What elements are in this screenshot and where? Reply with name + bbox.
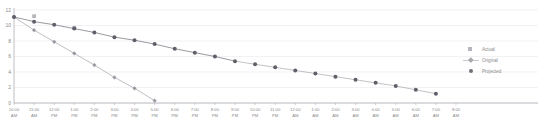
x-axis-tick-label: AM xyxy=(352,113,359,118)
series-marker-original xyxy=(132,86,136,90)
series-marker-original xyxy=(52,40,56,44)
x-axis-tick-label: 8:00 xyxy=(211,107,220,112)
series-marker-original xyxy=(112,75,116,79)
x-axis-tick-label: 2:00 xyxy=(90,107,99,112)
series-marker-projected xyxy=(32,20,36,24)
x-axis-tick-label: 8:00 xyxy=(452,107,461,112)
x-axis-tick-label: AM xyxy=(11,113,18,118)
series-marker-projected xyxy=(173,47,177,51)
x-axis-tick-label: AM xyxy=(312,113,319,118)
series-marker-original xyxy=(92,63,96,67)
x-axis-tick-label: AM xyxy=(433,113,440,118)
series-marker-actual xyxy=(32,14,36,18)
x-axis-tick-label: 4:00 xyxy=(130,107,139,112)
legend-item-projected[interactable]: Projected xyxy=(462,66,534,76)
chart-plot-area: 02468101210:00AM11:00AM12:00PM1:00PM2:00… xyxy=(0,0,538,129)
x-axis-tick-label: PM xyxy=(192,113,199,118)
y-axis-tick-label: 12 xyxy=(5,7,11,13)
legend-label-projected: Projected xyxy=(480,67,501,76)
x-axis-tick-label: 9:00 xyxy=(231,107,240,112)
x-axis-tick-label: 1:00 xyxy=(70,107,79,112)
legend-item-original[interactable]: Original xyxy=(462,55,534,65)
x-axis-tick-label: 7:00 xyxy=(191,107,200,112)
series-marker-projected xyxy=(414,88,418,92)
series-marker-projected xyxy=(434,92,438,96)
y-axis-tick-label: 10 xyxy=(5,22,11,28)
x-axis-tick-label: AM xyxy=(31,113,38,118)
line-chart: 02468101210:00AM11:00AM12:00PM1:00PM2:00… xyxy=(0,0,538,129)
x-axis-tick-label: AM xyxy=(393,113,400,118)
x-axis-tick-label: 12:00 xyxy=(290,107,301,112)
series-marker-projected xyxy=(273,65,277,69)
series-marker-projected xyxy=(72,27,76,31)
x-axis-tick-label: PM xyxy=(212,113,219,118)
x-axis-tick-label: 1:00 xyxy=(311,107,320,112)
x-axis-tick-label: 5:00 xyxy=(392,107,401,112)
x-axis-tick-label: AM xyxy=(413,113,420,118)
series-marker-projected xyxy=(153,42,157,46)
series-marker-projected xyxy=(374,81,378,85)
series-marker-original xyxy=(72,51,76,55)
y-axis-tick-label: 2 xyxy=(8,84,11,90)
y-axis-tick-label: 4 xyxy=(8,69,11,75)
x-axis-tick-label: AM xyxy=(453,113,460,118)
series-marker-projected xyxy=(333,75,337,79)
x-axis-tick-label: 4:00 xyxy=(372,107,381,112)
x-axis-tick-label: 6:00 xyxy=(171,107,180,112)
series-marker-projected xyxy=(92,30,96,34)
x-axis-tick-label: PM xyxy=(151,113,158,118)
legend-item-actual[interactable]: Actual xyxy=(462,44,534,54)
series-marker-projected xyxy=(213,55,217,59)
x-axis-tick-label: AM xyxy=(292,113,299,118)
chart-legend: Actual Original Projected xyxy=(462,44,534,77)
x-axis-tick-label: PM xyxy=(232,113,239,118)
circle-marker-icon xyxy=(462,67,480,76)
series-marker-original xyxy=(153,99,157,103)
x-axis-tick-label: 12:00 xyxy=(49,107,60,112)
x-axis-tick-label: 3:00 xyxy=(110,107,119,112)
x-axis-tick-label: PM xyxy=(111,113,118,118)
square-marker-icon xyxy=(462,45,480,54)
series-marker-projected xyxy=(52,23,56,27)
x-axis-tick-label: 10:00 xyxy=(9,107,20,112)
x-axis-tick-label: 11:00 xyxy=(29,107,40,112)
x-axis-tick-label: AM xyxy=(332,113,339,118)
x-axis-tick-label: AM xyxy=(372,113,379,118)
series-marker-projected xyxy=(112,35,116,39)
series-marker-projected xyxy=(253,62,257,66)
x-axis-tick-label: 3:00 xyxy=(351,107,360,112)
series-marker-projected xyxy=(293,68,297,72)
diamond-line-marker-icon xyxy=(462,56,480,65)
legend-label-actual: Actual xyxy=(480,45,495,54)
x-axis-tick-label: PM xyxy=(172,113,179,118)
series-marker-projected xyxy=(394,84,398,88)
x-axis-tick-label: PM xyxy=(91,113,98,118)
series-marker-projected xyxy=(12,15,16,19)
y-axis-tick-label: 6 xyxy=(8,53,11,59)
x-axis-tick-label: PM xyxy=(272,113,279,118)
series-line-projected xyxy=(14,17,235,61)
y-axis-tick-label: 0 xyxy=(8,100,11,106)
x-axis-tick-label: 2:00 xyxy=(331,107,340,112)
x-axis-tick-label: 6:00 xyxy=(412,107,421,112)
x-axis-tick-label: 11:00 xyxy=(270,107,281,112)
series-marker-projected xyxy=(193,51,197,55)
x-axis-tick-label: 7:00 xyxy=(432,107,441,112)
x-axis-tick-label: 10:00 xyxy=(250,107,261,112)
series-marker-projected xyxy=(133,38,137,42)
y-axis-tick-label: 8 xyxy=(8,38,11,44)
legend-label-original: Original xyxy=(480,56,498,65)
x-axis-tick-label: PM xyxy=(252,113,259,118)
x-axis-tick-label: PM xyxy=(131,113,138,118)
x-axis-tick-label: PM xyxy=(71,113,78,118)
x-axis-tick-label: PM xyxy=(51,113,58,118)
series-marker-projected xyxy=(313,72,317,76)
series-marker-projected xyxy=(354,78,358,82)
x-axis-tick-label: 5:00 xyxy=(151,107,160,112)
series-marker-original xyxy=(32,28,36,32)
